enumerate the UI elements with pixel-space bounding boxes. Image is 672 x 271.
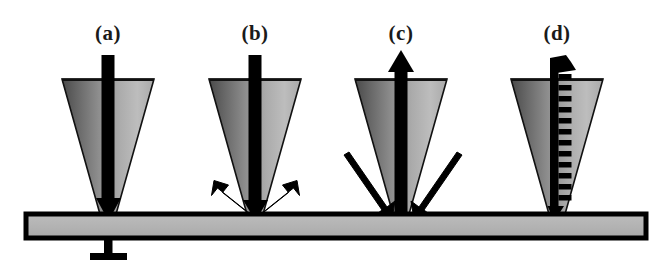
figure-root: (a) (b) xyxy=(0,0,672,271)
ground-bar xyxy=(90,253,127,260)
panel-a-label: (a) xyxy=(95,21,121,45)
substrate-group xyxy=(26,214,646,238)
figure-canvas: (a) (b) xyxy=(0,0,672,271)
sample-substrate-bar xyxy=(26,214,646,238)
panel-d-label: (d) xyxy=(543,21,570,45)
panel-c-label: (c) xyxy=(389,21,414,45)
panel-b-label: (b) xyxy=(241,21,268,45)
